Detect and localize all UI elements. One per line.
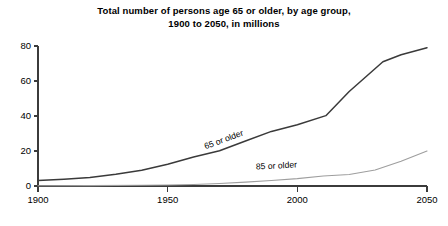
series-labels: 65 or older85 or older [203, 128, 298, 172]
x-axis-tick-label: 1950 [157, 194, 178, 205]
series-label-65-or-older: 65 or older [203, 128, 245, 151]
x-axis-tick-label: 2050 [416, 194, 437, 205]
y-axis-tick-label: 80 [20, 40, 31, 51]
y-axis-tick-label: 20 [20, 145, 31, 156]
series-lines [38, 48, 427, 186]
x-axis-tick-label: 1900 [27, 194, 48, 205]
chart-figure: Total number of persons age 65 or older,… [0, 0, 448, 226]
line-chart-plot: 020406080 1900195020002050 65 or older85… [0, 0, 448, 226]
y-axis-tick-label: 0 [26, 180, 31, 191]
series-line-65-or-older [38, 48, 427, 181]
y-axis-tick-label: 40 [20, 110, 31, 121]
series-line-85-or-older [38, 151, 427, 186]
x-axis: 1900195020002050 [27, 186, 437, 205]
y-axis: 020406080 [20, 40, 38, 191]
x-axis-tick-label: 2000 [287, 194, 308, 205]
y-axis-tick-label: 60 [20, 75, 31, 86]
series-label-85-or-older: 85 or older [256, 159, 298, 171]
